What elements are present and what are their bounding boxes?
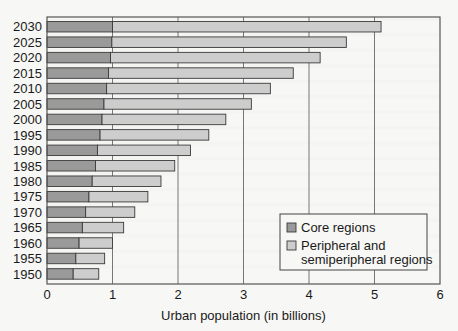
bar-core	[47, 52, 111, 63]
urban-population-chart: 2030202520202015201020052000199519901985…	[0, 0, 458, 331]
bar-peripheral	[79, 238, 112, 249]
bar-row-2020	[47, 52, 320, 63]
bar-row-2030	[47, 21, 381, 32]
legend-label-peripheral-line2: semiperipheral regions	[301, 252, 433, 267]
x-tick-label: 1	[109, 287, 116, 302]
bar-row-1985	[47, 161, 175, 172]
bar-core	[47, 37, 112, 48]
bar-core	[47, 21, 113, 32]
bar-row-2010	[47, 83, 270, 94]
legend-label-core: Core regions	[301, 220, 376, 235]
bar-row-2005	[47, 99, 251, 110]
bar-row-1955	[47, 253, 105, 264]
bar-core	[47, 145, 97, 156]
bar-peripheral	[104, 99, 251, 110]
year-label: 1960	[13, 236, 42, 251]
bar-core	[47, 161, 95, 172]
year-label: 1990	[13, 143, 42, 158]
x-axis-title: Urban population (in billions)	[161, 308, 326, 323]
bar-row-1980	[47, 176, 161, 187]
year-label: 1975	[13, 189, 42, 204]
bar-core	[47, 176, 92, 187]
bar-peripheral	[113, 21, 382, 32]
category-labels: 2030202520202015201020052000199519901985…	[13, 19, 42, 281]
year-label: 1950	[13, 267, 42, 282]
bar-row-1960	[47, 238, 113, 249]
bar-row-1990	[47, 145, 190, 156]
bar-peripheral	[95, 161, 174, 172]
bar-core	[47, 68, 109, 79]
year-label: 2025	[13, 35, 42, 50]
year-label: 2000	[13, 112, 42, 127]
x-tick-label: 3	[240, 287, 247, 302]
bar-row-1995	[47, 130, 209, 141]
bar-core	[47, 207, 86, 218]
year-label: 1985	[13, 159, 42, 174]
bar-core	[47, 253, 76, 264]
bar-peripheral	[109, 68, 294, 79]
legend-label-peripheral-line1: Peripheral and	[301, 238, 386, 253]
bar-peripheral	[111, 52, 321, 63]
year-label: 1980	[13, 174, 42, 189]
bar-row-2025	[47, 37, 346, 48]
bar-core	[47, 99, 104, 110]
bar-peripheral	[73, 269, 99, 280]
bar-core	[47, 130, 100, 141]
bar-peripheral	[89, 191, 148, 202]
x-tick-label: 6	[436, 287, 443, 302]
bar-core	[47, 269, 73, 280]
bar-peripheral	[107, 83, 271, 94]
year-label: 2020	[13, 50, 42, 65]
bar-core	[47, 238, 79, 249]
bar-core	[47, 114, 102, 125]
year-label: 1965	[13, 220, 42, 235]
bar-core	[47, 191, 89, 202]
bar-row-1975	[47, 191, 148, 202]
year-label: 1955	[13, 251, 42, 266]
bar-peripheral	[112, 37, 346, 48]
x-tick-label: 2	[174, 287, 181, 302]
bar-row-1970	[47, 207, 135, 218]
bar-row-2000	[47, 114, 226, 125]
year-label: 2030	[13, 19, 42, 34]
bar-row-1950	[47, 269, 99, 280]
bar-peripheral	[97, 145, 190, 156]
year-label: 2010	[13, 81, 42, 96]
year-label: 2005	[13, 97, 42, 112]
bar-core	[47, 222, 82, 233]
bar-core	[47, 83, 107, 94]
bar-peripheral	[92, 176, 161, 187]
legend-swatch-core	[287, 223, 296, 232]
bar-peripheral	[86, 207, 135, 218]
x-tick-label: 4	[305, 287, 312, 302]
x-tick-label: 0	[43, 287, 50, 302]
year-label: 1970	[13, 205, 42, 220]
bar-row-1965	[47, 222, 124, 233]
x-tick-labels: 0123456	[43, 287, 443, 302]
bar-row-2015	[47, 68, 293, 79]
bar-peripheral	[100, 130, 209, 141]
year-label: 1995	[13, 128, 42, 143]
bar-peripheral	[82, 222, 123, 233]
bar-peripheral	[102, 114, 226, 125]
legend: Core regions Peripheral and semiperipher…	[280, 214, 433, 270]
bar-peripheral	[76, 253, 105, 264]
legend-swatch-peripheral	[287, 241, 296, 250]
year-label: 2015	[13, 66, 42, 81]
x-tick-label: 5	[371, 287, 378, 302]
